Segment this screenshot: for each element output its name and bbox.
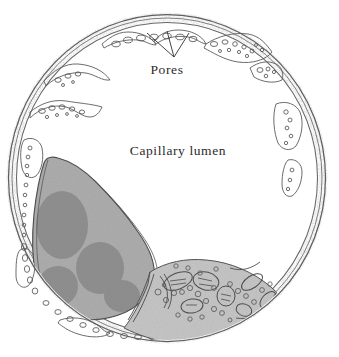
capillary-figure: Pores Capillary lumen bbox=[0, 0, 339, 357]
capillary-lumen-label: Capillary lumen bbox=[130, 143, 226, 158]
pores-label: Pores bbox=[151, 62, 184, 77]
capillary-cross-section-diagram: Pores Capillary lumen bbox=[0, 0, 339, 357]
